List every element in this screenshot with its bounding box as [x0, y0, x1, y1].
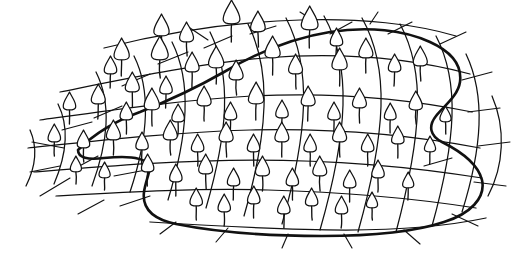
bud-stem — [262, 176, 263, 191]
bud-stem — [394, 72, 395, 86]
bud-stem — [142, 150, 143, 164]
bud-stem — [296, 74, 297, 89]
bud-stem — [319, 176, 320, 191]
bud-stem — [415, 110, 416, 124]
bud-stem — [420, 66, 421, 81]
bud-stem — [341, 214, 342, 228]
bud-stem — [178, 122, 179, 136]
bud-stem — [206, 174, 207, 189]
bud-stem — [312, 206, 313, 220]
bud-stem — [170, 140, 171, 155]
illustration-canvas — [0, 0, 518, 259]
bud-stem — [236, 80, 237, 95]
net-illustration — [0, 0, 518, 259]
bud-stem — [98, 104, 99, 119]
bud-stem — [186, 42, 187, 56]
bud-stem — [258, 32, 259, 47]
bud-stem — [226, 142, 227, 157]
bud-stem — [309, 31, 310, 49]
